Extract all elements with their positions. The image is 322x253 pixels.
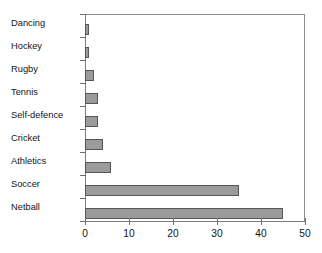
category-label: Athletics: [11, 156, 46, 166]
clipped-caption-text: [18, 0, 308, 3]
x-axis-tick: [85, 218, 86, 225]
bar: [85, 70, 94, 81]
y-axis-tick: [80, 106, 86, 107]
category-label: Hockey: [11, 41, 42, 51]
y-axis-tick: [80, 37, 86, 38]
bar: [85, 162, 111, 173]
x-axis-tick-label: 10: [123, 228, 134, 240]
x-axis-tick: [217, 218, 218, 225]
y-axis-tick: [80, 14, 86, 15]
category-label: Rugby: [11, 64, 38, 74]
x-axis-tick: [305, 218, 306, 225]
bar: [85, 116, 98, 127]
category-label: Soccer: [11, 179, 40, 189]
x-axis-tick: [173, 218, 174, 225]
category-label: Netball: [11, 202, 40, 212]
category-label: Dancing: [11, 18, 45, 28]
category-label: Self-defence: [11, 110, 63, 120]
bar: [85, 24, 89, 35]
bar: [85, 139, 103, 150]
bar: [85, 185, 239, 196]
x-axis-tick-label: 20: [167, 228, 178, 240]
y-axis-tick: [80, 175, 86, 176]
x-axis-tick: [261, 218, 262, 225]
bar: [85, 208, 283, 219]
y-axis-tick: [80, 83, 86, 84]
x-axis-tick-label: 30: [211, 228, 222, 240]
y-axis-tick: [80, 198, 86, 199]
x-axis-tick-label: 0: [82, 228, 88, 240]
bar: [85, 47, 89, 58]
y-axis-tick: [80, 129, 86, 130]
x-axis-tick-label: 40: [255, 228, 266, 240]
y-axis-tick: [80, 60, 86, 61]
bar: [85, 93, 98, 104]
x-axis-line: [85, 221, 306, 222]
x-axis-tick: [129, 218, 130, 225]
bar-chart: DancingHockeyRugbyTennisSelf-defenceCric…: [0, 0, 322, 253]
y-axis-tick: [80, 152, 86, 153]
x-axis-tick-label: 50: [299, 228, 310, 240]
category-label: Tennis: [11, 87, 38, 97]
category-label: Cricket: [11, 133, 40, 143]
